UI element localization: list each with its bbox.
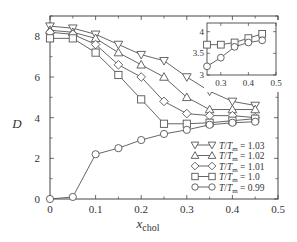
- legend-square-icon: [192, 173, 198, 179]
- circle-marker: [69, 193, 76, 200]
- square-marker: [46, 35, 53, 42]
- triangle-down-marker: [182, 74, 191, 82]
- circle-marker: [252, 118, 259, 125]
- legend: T/Tm = 1.03T/Tm = 1.02T/Tm = 1.01T/Tm = …: [191, 141, 265, 195]
- inset-plot-area: 0.30.40.533.54: [193, 20, 293, 92]
- circle-marker: [138, 136, 145, 143]
- square-marker: [115, 71, 122, 78]
- y-axis-label: D: [11, 116, 22, 131]
- chart: 00.10.20.30.40.502468 0.30.40.533.54 T/T…: [0, 0, 297, 242]
- x-tick-label: 0.1: [89, 203, 103, 215]
- legend-diamond-icon: [191, 162, 199, 170]
- square-marker: [160, 120, 167, 127]
- inset-circle-marker: [204, 63, 211, 70]
- square-marker: [92, 49, 99, 56]
- inset-y-tick-label: 3: [200, 70, 205, 80]
- square-marker: [138, 96, 145, 103]
- triangle-up-marker: [251, 105, 260, 113]
- x-tick-label: 0: [47, 203, 53, 215]
- inset-circle-marker: [245, 39, 252, 46]
- triangle-down-marker: [160, 57, 169, 65]
- x-axis-label-subscript: chol: [142, 222, 159, 233]
- legend-circle-icon: [192, 184, 198, 190]
- circle-marker: [229, 119, 236, 126]
- legend-triangle-up-icon: [208, 152, 216, 159]
- circle-marker: [115, 145, 122, 152]
- circle-marker: [46, 195, 53, 202]
- circle-marker: [206, 121, 213, 128]
- y-tick-label: 8: [35, 30, 41, 42]
- y-tick-label: 2: [35, 152, 41, 164]
- legend-diamond-icon: [208, 162, 216, 170]
- y-tick-label: 6: [35, 71, 41, 83]
- inset-square-marker: [217, 41, 224, 48]
- triangle-up-marker: [114, 48, 123, 56]
- inset-square-marker: [259, 30, 266, 37]
- triangle-up-marker: [137, 60, 146, 68]
- inset-y-tick-label: 4: [200, 27, 205, 37]
- circle-marker: [183, 126, 190, 133]
- legend-triangle-up-icon: [191, 152, 199, 159]
- x-tick-label: 0.3: [180, 203, 194, 215]
- y-tick-label: 4: [35, 112, 41, 124]
- x-axis-label: xchol: [136, 216, 160, 233]
- inset-circle-marker: [231, 43, 238, 50]
- inset-circle-marker: [259, 37, 266, 44]
- inset-x-tick-label: 0.3: [215, 78, 227, 88]
- y-tick-label: 0: [35, 193, 41, 205]
- legend-triangle-down-icon: [191, 142, 199, 149]
- x-tick-label: 0.4: [226, 203, 240, 215]
- diamond-marker: [182, 109, 191, 118]
- circle-marker: [92, 151, 99, 158]
- inset-x-tick-label: 0.5: [270, 78, 282, 88]
- legend-label: T/Tm = 0.99: [219, 183, 265, 195]
- x-tick-label: 0.2: [134, 203, 148, 215]
- x-tick-label: 0.5: [271, 203, 285, 215]
- legend-circle-icon: [209, 184, 215, 190]
- legend-triangle-down-icon: [208, 142, 216, 149]
- inset-circle-marker: [217, 54, 224, 61]
- square-marker: [69, 35, 76, 42]
- circle-marker: [160, 130, 167, 137]
- triangle-up-marker: [160, 73, 169, 81]
- inset-x-tick-label: 0.4: [243, 78, 255, 88]
- inset-square-marker: [204, 41, 211, 48]
- inset-y-tick-label: 3.5: [193, 48, 205, 58]
- legend-item: T/Tm = 0.99: [192, 183, 265, 195]
- legend-square-icon: [209, 173, 215, 179]
